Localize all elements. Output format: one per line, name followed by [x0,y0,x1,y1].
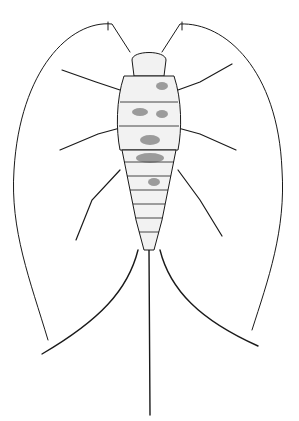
leg-left-2 [60,128,120,150]
leg-left-1 [62,70,120,90]
head [132,53,166,77]
leg-right-3 [178,170,222,236]
left-antenna [13,24,130,340]
leg-right-2 [178,128,236,150]
silverfish-drawing [0,0,299,421]
right-cercus [160,250,258,346]
median-filament [149,250,150,415]
illustration-canvas [0,0,299,421]
leg-right-1 [178,64,232,90]
abdomen [122,150,176,250]
leg-left-3 [76,170,120,240]
left-cercus [42,250,138,354]
